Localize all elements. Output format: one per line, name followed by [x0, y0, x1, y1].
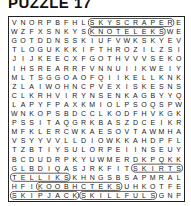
grid-cell[interactable]: U: [45, 45, 54, 54]
grid-cell[interactable]: I: [96, 100, 105, 109]
grid-cell[interactable]: D: [131, 155, 140, 164]
grid-cell[interactable]: S: [79, 191, 88, 200]
grid-cell[interactable]: Y: [174, 145, 183, 154]
grid-cell[interactable]: Q: [174, 91, 183, 100]
grid-cell[interactable]: K: [166, 155, 175, 164]
grid-cell[interactable]: K: [79, 36, 88, 45]
grid-cell[interactable]: P: [36, 191, 45, 200]
grid-cell[interactable]: K: [27, 91, 36, 100]
grid-cell[interactable]: K: [166, 118, 175, 127]
grid-cell[interactable]: I: [131, 64, 140, 73]
grid-cell[interactable]: A: [131, 136, 140, 145]
grid-cell[interactable]: W: [45, 82, 54, 91]
grid-cell[interactable]: S: [96, 91, 105, 100]
grid-cell[interactable]: E: [96, 182, 105, 191]
grid-cell[interactable]: Z: [19, 145, 28, 154]
grid-cell[interactable]: S: [88, 18, 97, 27]
grid-cell[interactable]: S: [157, 27, 166, 36]
grid-cell[interactable]: R: [71, 91, 80, 100]
grid-cell[interactable]: L: [19, 82, 28, 91]
grid-cell[interactable]: R: [53, 155, 62, 164]
grid-cell[interactable]: I: [174, 45, 183, 54]
grid-cell[interactable]: W: [71, 127, 80, 136]
grid-cell[interactable]: B: [96, 118, 105, 127]
grid-cell[interactable]: W: [166, 27, 175, 36]
grid-cell[interactable]: T: [166, 164, 175, 173]
grid-cell[interactable]: T: [96, 45, 105, 54]
grid-cell[interactable]: U: [36, 155, 45, 164]
grid-cell[interactable]: H: [45, 91, 54, 100]
grid-cell[interactable]: T: [88, 182, 97, 191]
grid-cell[interactable]: U: [122, 182, 131, 191]
grid-cell[interactable]: N: [19, 109, 28, 118]
grid-cell[interactable]: T: [10, 145, 19, 154]
grid-cell[interactable]: A: [131, 91, 140, 100]
grid-cell[interactable]: K: [62, 45, 71, 54]
grid-cell[interactable]: C: [79, 82, 88, 91]
grid-cell[interactable]: K: [53, 45, 62, 54]
grid-cell[interactable]: E: [157, 54, 166, 63]
grid-cell[interactable]: P: [140, 173, 149, 182]
grid-cell[interactable]: B: [114, 173, 123, 182]
grid-cell[interactable]: T: [27, 73, 36, 82]
grid-cell[interactable]: I: [62, 91, 71, 100]
grid-cell[interactable]: L: [96, 109, 105, 118]
grid-cell[interactable]: S: [174, 82, 183, 91]
grid-cell[interactable]: E: [148, 82, 157, 91]
grid-cell[interactable]: U: [131, 191, 140, 200]
grid-cell[interactable]: K: [62, 27, 71, 36]
grid-cell[interactable]: I: [19, 54, 28, 63]
grid-cell[interactable]: I: [36, 82, 45, 91]
grid-cell[interactable]: I: [122, 64, 131, 73]
grid-cell[interactable]: L: [140, 73, 149, 82]
grid-cell[interactable]: K: [140, 82, 149, 91]
grid-cell[interactable]: H: [140, 136, 149, 145]
grid-cell[interactable]: T: [10, 173, 19, 182]
grid-cell[interactable]: P: [62, 155, 71, 164]
grid-cell[interactable]: K: [71, 155, 80, 164]
grid-cell[interactable]: O: [140, 100, 149, 109]
grid-cell[interactable]: K: [71, 191, 80, 200]
grid-cell[interactable]: I: [88, 36, 97, 45]
grid-cell[interactable]: S: [19, 118, 28, 127]
grid-cell[interactable]: P: [27, 100, 36, 109]
grid-cell[interactable]: L: [79, 145, 88, 154]
grid-cell[interactable]: W: [148, 127, 157, 136]
grid-cell[interactable]: Y: [36, 136, 45, 145]
grid-cell[interactable]: C: [79, 182, 88, 191]
grid-cell[interactable]: I: [45, 173, 54, 182]
grid-cell[interactable]: L: [105, 191, 114, 200]
grid-cell[interactable]: M: [88, 100, 97, 109]
grid-cell[interactable]: S: [114, 18, 123, 27]
grid-cell[interactable]: C: [88, 109, 97, 118]
grid-cell[interactable]: A: [62, 164, 71, 173]
grid-cell[interactable]: X: [71, 54, 80, 63]
grid-cell[interactable]: N: [53, 36, 62, 45]
grid-cell[interactable]: E: [114, 155, 123, 164]
grid-cell[interactable]: R: [166, 18, 175, 27]
grid-cell[interactable]: Q: [53, 164, 62, 173]
grid-cell[interactable]: O: [62, 73, 71, 82]
grid-cell[interactable]: G: [53, 73, 62, 82]
grid-cell[interactable]: E: [105, 91, 114, 100]
grid-cell[interactable]: G: [157, 191, 166, 200]
grid-cell[interactable]: M: [10, 127, 19, 136]
grid-cell[interactable]: O: [105, 100, 114, 109]
grid-cell[interactable]: K: [96, 18, 105, 27]
grid-cell[interactable]: I: [114, 164, 123, 173]
grid-cell[interactable]: A: [53, 64, 62, 73]
grid-cell[interactable]: H: [166, 127, 175, 136]
grid-cell[interactable]: Y: [166, 91, 175, 100]
grid-cell[interactable]: U: [166, 145, 175, 154]
grid-cell[interactable]: A: [88, 127, 97, 136]
grid-cell[interactable]: I: [36, 118, 45, 127]
grid-cell[interactable]: B: [148, 91, 157, 100]
grid-cell[interactable]: H: [140, 109, 149, 118]
grid-cell[interactable]: X: [36, 27, 45, 36]
grid-cell[interactable]: K: [174, 73, 183, 82]
grid-cell[interactable]: A: [166, 173, 175, 182]
grid-cell[interactable]: E: [53, 54, 62, 63]
grid-cell[interactable]: F: [62, 18, 71, 27]
grid-cell[interactable]: F: [131, 109, 140, 118]
grid-cell[interactable]: K: [140, 182, 149, 191]
